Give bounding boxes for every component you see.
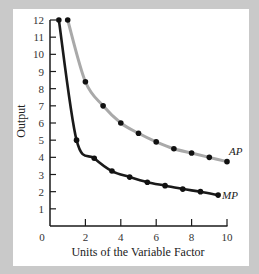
mp-data-point	[109, 168, 115, 174]
ap-data-point	[153, 139, 159, 145]
y-tick-label: 4	[39, 151, 45, 163]
mp-data-point	[180, 186, 186, 192]
mp-data-point	[162, 183, 168, 189]
ap-curve	[68, 20, 227, 162]
x-tick-label: 8	[189, 231, 195, 243]
series-layer	[56, 17, 230, 198]
mp-curve	[59, 20, 218, 195]
ap-data-point	[171, 146, 177, 152]
ap-data-point	[118, 120, 124, 126]
mp-data-point	[145, 179, 151, 185]
mp-data-point	[74, 137, 80, 143]
production-chart: 123456789101112246810 Units of the Varia…	[0, 0, 259, 274]
x-tick-label: 4	[118, 231, 124, 243]
y-tick-label: 7	[39, 100, 45, 112]
y-tick-label: 6	[39, 117, 45, 129]
y-axis-label: Output	[14, 104, 28, 138]
y-tick-label: 2	[39, 186, 45, 198]
ap-data-point	[136, 131, 142, 137]
x-tick-label: 2	[83, 231, 89, 243]
y-tick-label: 3	[39, 169, 45, 181]
ap-data-point	[65, 17, 71, 23]
x-axis-label: Units of the Variable Factor	[71, 245, 204, 259]
y-tick-label: 11	[33, 31, 44, 43]
y-tick-label: 8	[39, 83, 45, 95]
ap-data-point	[189, 150, 195, 156]
mp-series-label: MP	[221, 189, 238, 201]
origin-label: 0	[39, 231, 45, 243]
mp-data-point	[127, 174, 133, 180]
y-tick-label: 9	[39, 66, 45, 78]
ap-data-point	[207, 155, 213, 161]
y-tick-label: 10	[33, 48, 45, 60]
mp-data-point	[198, 189, 204, 195]
y-tick-label: 1	[39, 203, 45, 215]
mp-data-point	[91, 155, 97, 161]
y-tick-label: 5	[39, 134, 45, 146]
x-tick-label: 10	[222, 231, 234, 243]
ap-data-point	[100, 103, 106, 109]
x-tick-label: 6	[153, 231, 159, 243]
y-tick-label: 12	[33, 14, 44, 26]
mp-data-point	[56, 17, 62, 23]
ap-data-point	[83, 79, 89, 85]
mp-data-point	[215, 192, 221, 198]
ap-data-point	[224, 159, 230, 165]
ap-series-label: AP	[228, 145, 243, 157]
